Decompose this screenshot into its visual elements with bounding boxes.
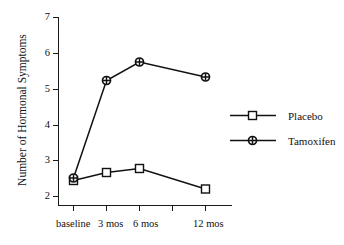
chart-figure: Number of Hormonal Symptoms 7 6 5 4 3 2 … xyxy=(0,0,344,245)
legend xyxy=(230,112,276,145)
x-axis-ticks xyxy=(74,206,206,212)
plot-area xyxy=(0,0,344,245)
y-axis-ticks xyxy=(53,18,59,197)
data-point-tamoxifen-6mos xyxy=(136,58,144,66)
data-point-tamoxifen-baseline xyxy=(70,174,78,182)
data-point-placebo-3mos xyxy=(103,169,111,177)
series-tamoxifen xyxy=(70,58,210,182)
data-point-placebo-12mos xyxy=(202,185,210,193)
legend-entry-placebo xyxy=(230,112,276,120)
data-point-tamoxifen-3mos xyxy=(103,77,111,85)
legend-entry-tamoxifen xyxy=(230,137,276,145)
data-point-tamoxifen-12mos xyxy=(202,73,210,81)
series-placebo xyxy=(70,165,210,194)
data-point-placebo-6mos xyxy=(136,165,144,173)
legend-marker-open-square xyxy=(249,112,257,120)
